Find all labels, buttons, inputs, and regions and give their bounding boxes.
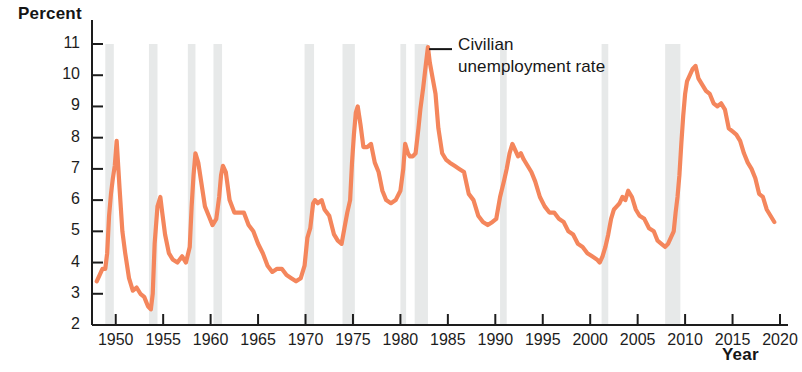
y-tick-label: 9	[54, 96, 80, 114]
x-tick-label: 1990	[470, 331, 520, 349]
y-axis-title: Percent	[18, 4, 82, 24]
axis-line-group	[92, 20, 788, 325]
y-tick-label: 3	[54, 284, 80, 302]
x-tick-label: 2005	[613, 331, 663, 349]
y-tick-label: 4	[54, 253, 80, 271]
x-tick-label: 1995	[518, 331, 568, 349]
x-tick-label: 1955	[138, 331, 188, 349]
x-tick-label: 2020	[755, 331, 802, 349]
recession-band	[602, 44, 609, 325]
y-tick-label: 2	[54, 315, 80, 333]
x-tick-label: 1950	[91, 331, 141, 349]
x-tick-label: 2010	[660, 331, 710, 349]
x-tick-label: 1985	[423, 331, 473, 349]
recession-band	[305, 44, 314, 325]
y-tick-label: 10	[54, 65, 80, 83]
y-tick-label: 7	[54, 159, 80, 177]
x-tick-label: 1970	[281, 331, 331, 349]
x-tick-label: 1960	[186, 331, 236, 349]
y-tick-label: 8	[54, 128, 80, 146]
x-tick-label: 2000	[565, 331, 615, 349]
x-tick-label: 1965	[233, 331, 283, 349]
x-tick-label: 1975	[328, 331, 378, 349]
y-tick-label: 11	[54, 34, 80, 52]
x-tick-label: 1980	[375, 331, 425, 349]
y-tick-label: 5	[54, 221, 80, 239]
series-annotation-label: Civilian unemployment rate	[458, 34, 605, 78]
x-tick-label: 2015	[708, 331, 758, 349]
y-tick-label: 6	[54, 190, 80, 208]
